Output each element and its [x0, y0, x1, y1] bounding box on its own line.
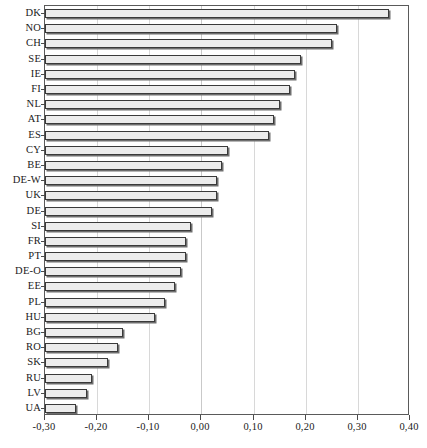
bar-pl [45, 298, 165, 307]
category-label-se: SE [1, 53, 41, 65]
category-label-uk: UK [1, 189, 41, 201]
category-label-pt: PT [1, 250, 41, 262]
x-tick [200, 415, 201, 420]
category-tick [41, 226, 45, 227]
bar-row [45, 328, 409, 337]
bar-row [45, 55, 409, 64]
bar-row [45, 343, 409, 352]
category-label-no: NO [1, 22, 41, 34]
category-tick [41, 286, 45, 287]
category-tick [41, 150, 45, 151]
category-label-bg: BG [1, 326, 41, 338]
bar-row [45, 404, 409, 413]
bar-row [45, 115, 409, 124]
category-label-ie: IE [1, 68, 41, 80]
bar-sk [45, 358, 108, 367]
bar-si [45, 222, 191, 231]
bar-row [45, 70, 409, 79]
bar-row [45, 146, 409, 155]
category-label-nl: NL [1, 98, 41, 110]
bar-ru [45, 374, 92, 383]
category-tick [41, 317, 45, 318]
category-tick [41, 28, 45, 29]
bar-row [45, 191, 409, 200]
bar-row [45, 374, 409, 383]
category-tick [41, 332, 45, 333]
bar-row [45, 222, 409, 231]
bar-de [45, 207, 212, 216]
bar-row [45, 161, 409, 170]
category-label-si: SI [1, 220, 41, 232]
bar-ie [45, 70, 295, 79]
bar-row [45, 9, 409, 18]
bar-ch [45, 39, 332, 48]
bar-ro [45, 343, 118, 352]
bar-cy [45, 146, 228, 155]
category-tick [41, 211, 45, 212]
bar-fi [45, 85, 290, 94]
x-tick-label: 0,20 [282, 421, 328, 432]
x-tick [409, 415, 410, 420]
bar-row [45, 282, 409, 291]
category-label-ru: RU [1, 372, 41, 384]
category-label-de: DE [1, 205, 41, 217]
bar-row [45, 85, 409, 94]
bar-be [45, 161, 222, 170]
bar-chart: DKNOCHSEIEFINLATESCYBEDE-WUKDESIFRPTDE-O… [0, 0, 427, 448]
x-tick [44, 415, 45, 420]
category-label-de-w: DE-W [1, 174, 41, 186]
category-label-pl: PL [1, 296, 41, 308]
category-label-fi: FI [1, 83, 41, 95]
category-tick [41, 180, 45, 181]
category-label-be: BE [1, 159, 41, 171]
x-tick-label: -0,10 [125, 421, 171, 432]
bar-nl [45, 100, 280, 109]
category-label-ua: UA [1, 402, 41, 414]
bar-row [45, 237, 409, 246]
category-tick [41, 362, 45, 363]
bar-row [45, 389, 409, 398]
category-label-de-o: DE-O [1, 265, 41, 277]
bar-lv [45, 389, 87, 398]
category-label-ro: RO [1, 341, 41, 353]
bar-ee [45, 282, 175, 291]
bar-row [45, 39, 409, 48]
x-tick-label: 0,30 [334, 421, 380, 432]
category-tick [41, 256, 45, 257]
category-label-at: AT [1, 113, 41, 125]
x-axis: -0,30-0,20-0,100,000,100,200,300,40 [44, 415, 409, 448]
bar-de-o [45, 267, 181, 276]
category-tick [41, 43, 45, 44]
bar-row [45, 252, 409, 261]
category-tick [41, 347, 45, 348]
bar-row [45, 100, 409, 109]
bar-dk [45, 9, 389, 18]
category-tick [41, 271, 45, 272]
bar-row [45, 358, 409, 367]
category-tick [41, 74, 45, 75]
category-tick [41, 393, 45, 394]
category-label-hu: HU [1, 311, 41, 323]
bar-no [45, 24, 337, 33]
category-tick [41, 13, 45, 14]
bar-pt [45, 252, 186, 261]
category-label-lv: LV [1, 387, 41, 399]
bar-hu [45, 313, 155, 322]
category-label-sk: SK [1, 356, 41, 368]
category-label-ch: CH [1, 37, 41, 49]
category-tick [41, 89, 45, 90]
x-tick [148, 415, 149, 420]
bar-fr [45, 237, 186, 246]
bar-ua [45, 404, 76, 413]
bar-row [45, 207, 409, 216]
x-tick-label: 0,40 [386, 421, 427, 432]
x-tick [253, 415, 254, 420]
bar-es [45, 131, 269, 140]
bar-row [45, 267, 409, 276]
category-tick [41, 378, 45, 379]
category-tick [41, 165, 45, 166]
bar-uk [45, 191, 217, 200]
x-tick-label: 0,10 [230, 421, 276, 432]
category-axis: DKNOCHSEIEFINLATESCYBEDE-WUKDESIFRPTDE-O… [0, 5, 41, 415]
category-tick [41, 135, 45, 136]
